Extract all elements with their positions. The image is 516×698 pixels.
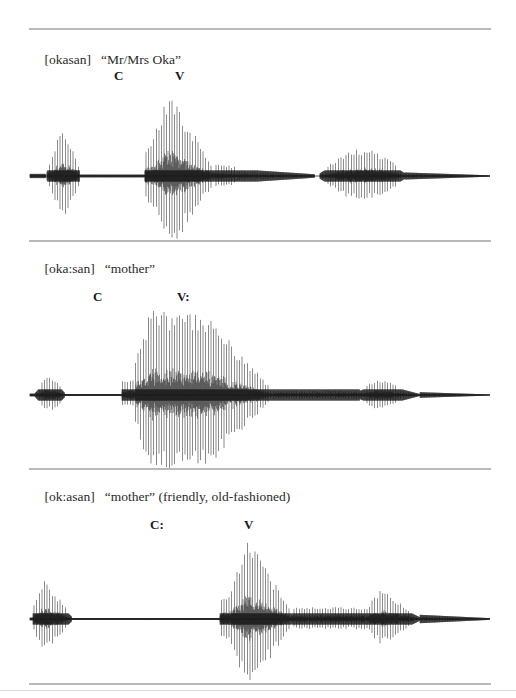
section-rule	[29, 28, 491, 30]
panel-2-transcription: [oka:san]	[45, 261, 95, 276]
panel-3-gloss: “mother” (friendly, old-fashioned)	[105, 489, 290, 504]
panel-2-caption: [oka:san] “mother”	[31, 245, 155, 293]
panel-2-waveform	[0, 300, 516, 470]
panel-1-waveform	[0, 80, 516, 240]
panel-1-caption: [okasan] “Mr/Mrs Oka”	[31, 36, 181, 84]
waveform-svg	[0, 530, 516, 680]
panel-3-transcription: [ok:asan]	[45, 489, 95, 504]
panel-2-gloss: “mother”	[105, 261, 155, 276]
section-rule	[29, 240, 491, 242]
panel-1-gloss: “Mr/Mrs Oka”	[101, 52, 181, 67]
waveform-svg	[0, 300, 516, 470]
panel-1-transcription: [okasan]	[45, 52, 91, 67]
panel-3-waveform	[0, 530, 516, 680]
panel-3-caption: [ok:asan] “mother” (friendly, old-fashio…	[31, 473, 290, 521]
section-rule	[29, 468, 491, 470]
bottom-rule	[29, 683, 491, 685]
page-edge	[0, 690, 516, 691]
waveform-svg	[0, 80, 516, 240]
